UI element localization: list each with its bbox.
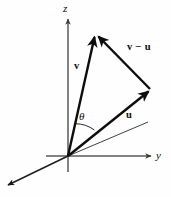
vector-diagram-canvas xyxy=(0,0,171,197)
vector-group xyxy=(68,37,150,157)
z-axis-label: z xyxy=(63,3,67,14)
angle-theta-arc xyxy=(75,124,94,130)
vector-v-minus-u-label: v − u xyxy=(127,42,151,53)
angle-arc-group xyxy=(75,124,94,130)
x-axis-line xyxy=(8,156,68,185)
angle-theta-label: θ xyxy=(79,111,84,122)
guide-line-group xyxy=(68,122,148,156)
y-axis-label: y xyxy=(156,150,161,161)
vector-v-label: v xyxy=(74,61,79,72)
vector-diagram-figure: z y v u v − u θ xyxy=(0,0,171,197)
projection-ray-line xyxy=(68,122,148,156)
vector-u-label: u xyxy=(126,110,132,121)
